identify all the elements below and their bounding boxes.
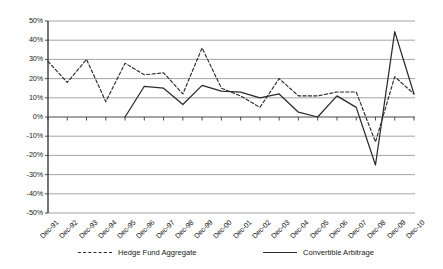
y-axis-tick-label: 50% [2,16,43,25]
y-axis-tick-label: 0% [2,112,43,121]
legend-label-2: Convertible Arbitrage [303,248,374,257]
y-axis-tick-label: -20% [2,150,43,159]
y-axis-tick-label: 20% [2,74,43,83]
legend-label-1: Hedge Fund Aggregate [118,248,197,257]
y-axis-tick-label: -30% [2,170,43,179]
legend-swatch-2 [263,252,297,253]
legend-swatch-1 [78,252,112,253]
y-axis-tick-label: 40% [2,35,43,44]
series-line-2 [125,32,414,165]
series-line-1 [48,48,414,142]
y-axis-tick-label: -10% [2,131,43,140]
y-axis-tick-label: 30% [2,54,43,63]
y-axis-tick-label: 10% [2,93,43,102]
y-axis-tick-label: -40% [2,189,43,198]
y-axis-tick-label: -50% [2,208,43,217]
chart-container: 50%40%30%20%10%0%-10%-20%-30%-40%-50% De… [0,0,443,269]
